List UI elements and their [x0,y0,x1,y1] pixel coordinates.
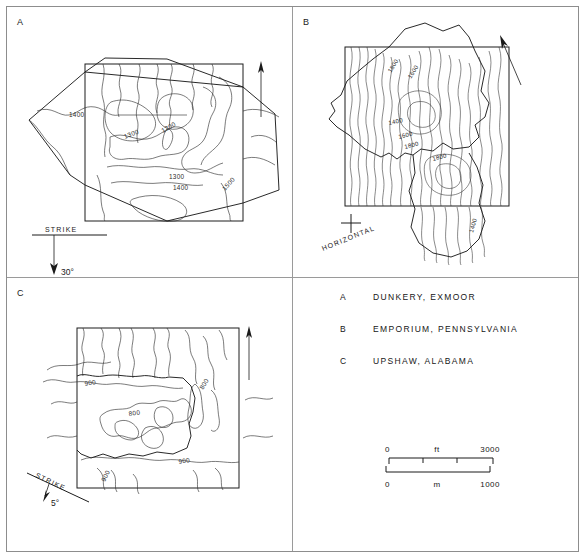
panel-c-region-boundary [77,375,195,458]
contour-label: 900 [178,456,191,465]
horizontal-symbol: HORIZONTAL [321,214,376,252]
legend-entry-b: B EMPORIUM, PENNSYLVANIA [340,324,518,334]
contour-line [167,328,170,376]
contour-line [81,457,239,462]
contour-label: 1800 [387,58,400,74]
panel-b-map: 1800 1600 1400 1600 1800 1800 1400 HORIZ… [293,7,578,277]
scale-bar: 0 ft 3000 0 m 1000 [385,445,500,489]
contour-label: 1500 [221,175,237,191]
contour-line [215,468,223,490]
strike-dip-symbol: STRIKE 30° [32,226,107,277]
scale-labels-feet: 0 ft 3000 [385,445,500,454]
contour-line [118,328,121,378]
contour-line [192,64,194,110]
panel-c-map-frame [77,328,239,488]
scale-meters-min: 0 [385,480,390,489]
contour-line [219,330,227,360]
contour-line [37,107,187,116]
panel-c: C [7,278,292,551]
contour-label: 1800 [432,153,448,162]
contour-line [251,135,277,143]
contour-line [47,362,111,370]
north-arrow-icon [258,61,264,117]
dip-value: 30° [61,267,74,277]
legend-name-a: DUNKERY, EXMOOR [373,292,476,302]
scale-meters-max: 1000 [480,480,500,489]
strike-dip-symbol: STRIKE 5° [27,472,89,508]
dip-value: 5° [51,498,59,508]
horizontal-label: HORIZONTAL [321,224,376,252]
contour-line [141,426,163,448]
legend-name-c: UPSHAW, ALABAMA [373,356,474,366]
contour-line [51,402,77,404]
legend-entry-c: C UPSHAW, ALABAMA [340,356,518,366]
contour-line [407,101,435,127]
contour-line [243,436,273,438]
contour-line [97,175,105,221]
contour-line [111,470,117,492]
contour-label: 800 [198,377,210,391]
panel-a-region-boundary-north [85,58,243,87]
contour-line [43,380,183,389]
contour-label: 1300 [169,173,185,180]
contour-line [131,328,134,378]
contour-line [154,407,173,428]
legend-key-c: C [340,356,373,366]
contour-label: 1400 [69,111,85,118]
contour-label: 1400 [388,117,404,126]
contour-label: 800 [128,408,141,417]
strike-label: STRIKE [45,226,77,233]
contour-line [47,436,77,438]
contour-line [109,127,189,160]
scale-feet-unit: ft [434,445,439,454]
contour-label: 1400 [173,184,189,191]
contour-line [118,64,121,117]
contour-line [211,64,213,107]
contour-line [436,164,461,189]
legend-key-a: A [340,292,373,302]
contour-line [100,399,191,439]
legend-name-b: EMPORIUM, PENNSYLVANIA [373,324,518,334]
contour-label: 1400 [468,217,478,233]
contour-line [169,64,172,127]
contour-line [211,390,219,431]
contour-line [82,328,84,376]
contour-line [185,330,197,384]
scale-feet-max: 3000 [480,445,500,454]
panel-a-region-boundary [29,72,279,221]
strike-label: STRIKE [35,472,67,492]
contour-line [133,474,139,494]
contour-line [182,87,223,173]
panel-c-map: 900 800 800 900 900 STRIKE 5° [7,278,292,551]
contour-line [245,398,273,400]
contour-label: 1200 [160,120,177,134]
contour-line [201,77,232,165]
panel-b: B [293,7,578,277]
contour-line [111,182,203,186]
north-arrow-icon [246,326,252,380]
contour-line [243,157,275,165]
scale-feet-min: 0 [385,445,390,454]
panel-b-region-boundary [329,23,489,159]
legend-entries: A DUNKERY, EXMOOR B EMPORIUM, PENNSYLVAN… [340,292,518,388]
north-arrow-icon [500,35,521,85]
figure-topographic-maps: A [0,0,586,559]
contour-line [424,154,471,195]
scale-meters-unit: m [433,480,440,489]
contour-line [101,328,104,374]
scale-bar-graphic [385,454,500,480]
panel-a-map-frame [85,64,243,221]
contour-line [153,328,156,378]
legend-key-b: B [340,324,373,334]
contour-line [107,166,223,175]
contour-label: 1600 [407,64,420,80]
contour-family [350,47,502,206]
legend-entry-a: A DUNKERY, EXMOOR [340,292,518,302]
contour-line [193,470,199,492]
contour-label: 900 [100,469,111,483]
panel-a-map: 1400 1300 1200 1300 1400 1500 STRIKE 30° [7,7,292,277]
scale-labels-meters: 0 m 1000 [385,480,500,489]
panel-b-region-boundary-south [409,153,485,257]
panel-a: A [7,7,292,277]
contour-label: 900 [84,378,97,387]
